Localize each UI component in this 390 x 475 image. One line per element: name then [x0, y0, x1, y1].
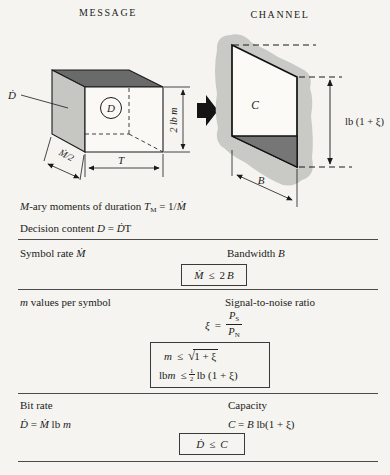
symbol-rate-label: Symbol rate Ṁ — [20, 247, 85, 259]
bit-rate-cube-label: Ḋ — [7, 89, 16, 101]
snr-formula: ξ = PS PN — [205, 310, 242, 339]
message-cube: D Ḋ 2 lb m T Ṁ — [7, 70, 190, 180]
message-channel-diagram: D Ḋ 2 lb m T Ṁ — [0, 0, 390, 232]
shannon-bound-box: m≤ √1 + ξ lb m≤ 12 lb (1 + ξ) — [150, 342, 270, 388]
channel-width-label: B — [258, 174, 265, 186]
snr-label: Signal-to-noise ratio — [225, 296, 315, 308]
divider-2 — [18, 289, 378, 290]
sqrt-expression: √1 + ξ — [188, 348, 218, 364]
mary-M: M — [20, 200, 29, 212]
cube-front-face — [85, 87, 163, 152]
sqrt-bound-line: m≤ √1 + ξ — [153, 348, 218, 364]
m-values-label: m values per symbol — [20, 296, 111, 308]
nyquist-formula-box: Ṁ≤2B — [181, 264, 247, 286]
capacity-section-label: Capacity — [228, 399, 267, 411]
capacity-formula: C = B lb(1 + ξ) — [228, 418, 295, 430]
decision-content-label: D — [106, 102, 115, 114]
figure-page: MESSAGE CHANNEL D Ḋ — [0, 0, 390, 475]
lb-bound-line: lb m≤ 12 lb (1 + ξ) — [153, 367, 238, 382]
divider-1 — [18, 239, 378, 240]
capacity-label: C — [251, 99, 259, 111]
bandwidth-label: Bandwidth B — [227, 247, 285, 259]
snr-fraction: PS PN — [226, 310, 242, 339]
cube-depth-label: Ṁ/2 — [56, 146, 76, 163]
bit-rate-label: Bit rate — [20, 399, 53, 411]
decision-content-line: Decision content D = ḊT — [20, 222, 131, 234]
channel-shape: C lb (1 + ξ) B — [215, 34, 384, 207]
divider-4 — [18, 461, 378, 462]
divider-3 — [18, 393, 378, 394]
one-half-fraction: 12 — [189, 367, 195, 382]
mary-moments-line: M-ary moments of duration TM = 1/Ṁ — [20, 200, 186, 214]
cube-width-label: T — [118, 154, 125, 166]
channel-height-label: lb (1 + ξ) — [345, 116, 384, 128]
rate-capacity-box: Ḋ≤C — [179, 433, 245, 455]
bit-rate-formula: Ḋ = Ṁ lb m — [20, 418, 71, 430]
message-to-channel-arrow-icon — [197, 95, 218, 126]
cube-height-label: 2 lb m — [168, 108, 179, 133]
